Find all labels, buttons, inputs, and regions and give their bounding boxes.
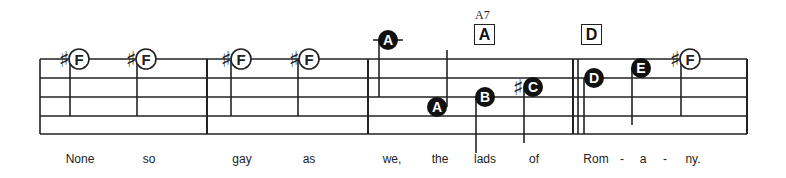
lyric-syllable: we, [383,152,402,166]
chord-box-a: A [474,24,495,45]
note-a-low: A [427,97,447,117]
svg-text:E: E [636,60,645,76]
svg-text:F: F [236,51,245,68]
lyric-hyphen: - [620,152,624,166]
note-b: B [475,87,495,107]
svg-text:F: F [304,51,313,68]
svg-text:A: A [432,99,442,115]
svg-text:A: A [383,32,393,48]
lyric-syllable: a [640,152,647,166]
lyric-syllable: Rom [583,152,608,166]
note-f-sharp: F [231,49,251,69]
note-a-high: A [378,30,398,50]
svg-text:C: C [528,79,538,95]
lyric-syllable: None [66,152,95,166]
lyric-hyphen: - [663,152,667,166]
note-d: D [584,68,604,88]
sharp-icon: ♯ [126,46,137,72]
lyric-syllable: of [529,152,539,166]
svg-text:D: D [589,70,599,86]
lyric-syllable: so [143,152,156,166]
sharp-icon: ♯ [513,74,524,100]
sharp-icon: ♯ [221,46,232,72]
sharp-icon: ♯ [670,46,681,72]
note-f-sharp: F [299,49,319,69]
note-e: E [631,58,651,78]
note-c-sharp: C [523,77,543,97]
sharp-icon: ♯ [59,46,70,72]
lyric-syllable: the [432,152,449,166]
lyric-syllable: gay [232,152,251,166]
note-f-sharp: F [69,49,89,69]
chord-box-d: D [581,24,602,45]
lyric-syllable: as [303,152,316,166]
svg-text:F: F [141,51,150,68]
svg-text:F: F [74,51,83,68]
lyric-syllable: lads [474,152,496,166]
note-f-sharp: F [680,49,700,69]
svg-text:B: B [480,89,490,105]
svg-text:F: F [685,51,694,68]
note-f-sharp: F [136,49,156,69]
lyric-syllable: ny. [685,152,700,166]
sharp-icon: ♯ [289,46,300,72]
chord-name-a7: A7 [475,8,490,23]
